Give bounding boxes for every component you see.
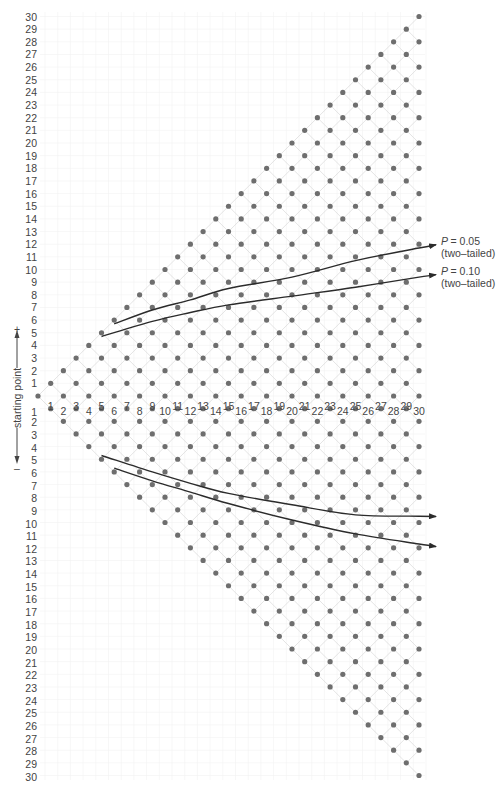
lattice-point (391, 318, 396, 323)
lattice-point (226, 355, 231, 360)
boundary-label-two-tailed: (two–tailed) (441, 247, 495, 259)
lattice-point (124, 431, 129, 436)
lattice-point (391, 216, 396, 221)
lattice-point (404, 204, 409, 209)
lattice-point (340, 469, 345, 474)
lattice-point (366, 646, 371, 651)
step-label: 18 (261, 405, 273, 417)
lattice-point (302, 608, 307, 613)
lattice-point (353, 710, 358, 715)
lattice-point (391, 39, 396, 44)
lattice-point (416, 166, 421, 171)
lattice-point (391, 672, 396, 677)
lattice-point (416, 520, 421, 525)
lattice-point (124, 305, 129, 310)
lattice-point (239, 545, 244, 550)
y-label-down: 21 (25, 657, 37, 669)
lattice-point (226, 381, 231, 386)
lattice-point (213, 267, 218, 272)
lattice-point (251, 381, 256, 386)
lattice-point (201, 229, 206, 234)
lattice-point (416, 267, 421, 272)
lattice-point (340, 520, 345, 525)
lattice-point (162, 292, 167, 297)
lattice-point (328, 128, 333, 133)
lattice-point (213, 368, 218, 373)
lattice-point (264, 545, 269, 550)
lattice-point (124, 330, 129, 335)
lattice-point (201, 330, 206, 335)
lattice-point (188, 343, 193, 348)
lattice-point (404, 305, 409, 310)
lattice-point (391, 115, 396, 120)
lattice-point (366, 697, 371, 702)
lattice-point (251, 608, 256, 613)
lattice-point (226, 254, 231, 259)
lattice-point (416, 444, 421, 449)
y-label-down: 24 (25, 695, 37, 707)
lattice-point (378, 431, 383, 436)
step-label: 29 (400, 400, 412, 412)
lattice-point (353, 355, 358, 360)
lattice-point (378, 457, 383, 462)
lattice-point (48, 381, 53, 386)
y-label-up: 5 (31, 327, 37, 339)
lattice-point (315, 571, 320, 576)
lattice-point (239, 267, 244, 272)
lattice-point (391, 748, 396, 753)
lattice-point (264, 444, 269, 449)
lattice-point (188, 267, 193, 272)
lattice-point (328, 153, 333, 158)
lattice-point (353, 608, 358, 613)
lattice-point (264, 318, 269, 323)
lattice-point (366, 242, 371, 247)
y-label-down: 13 (25, 555, 37, 567)
lattice-point (226, 280, 231, 285)
lattice-point (315, 216, 320, 221)
lattice-point (366, 65, 371, 70)
lattice-point (328, 102, 333, 107)
lattice-point (188, 368, 193, 373)
lattice-point (239, 520, 244, 525)
y-label-up: 28 (25, 36, 37, 48)
lattice-point (277, 608, 282, 613)
y-label-down: 29 (25, 758, 37, 770)
lattice-point (277, 355, 282, 360)
lattice-point (239, 242, 244, 247)
step-label: 28 (388, 405, 400, 417)
lattice-point (378, 178, 383, 183)
lattice-point (175, 330, 180, 335)
y-label-up: 27 (25, 48, 37, 60)
lattice-point (366, 621, 371, 626)
lattice-point (404, 381, 409, 386)
step-label: 21 (299, 400, 311, 412)
lattice-point (213, 469, 218, 474)
boundary-labels: P = 0.05(two–tailed)P = 0.10(two–tailed) (441, 235, 495, 289)
lattice-point (416, 318, 421, 323)
lattice-point (328, 659, 333, 664)
step-label: 20 (286, 405, 298, 417)
lattice-point (416, 722, 421, 727)
lattice-point (391, 444, 396, 449)
lattice-point (162, 393, 167, 398)
lattice-point (378, 659, 383, 664)
y-label-down: 19 (25, 631, 37, 643)
lattice-point (353, 634, 358, 639)
lattice-point (99, 381, 104, 386)
lattice-point (289, 469, 294, 474)
lattice-point (86, 393, 91, 398)
lattice-point (137, 419, 142, 424)
step-label: 1 (48, 400, 54, 412)
lattice-point (328, 533, 333, 538)
lattice-point (277, 507, 282, 512)
lattice-point (264, 495, 269, 500)
lattice-point (366, 343, 371, 348)
lattice-point (328, 482, 333, 487)
lattice-point (378, 608, 383, 613)
lattice-point (378, 229, 383, 234)
lattice-point (404, 77, 409, 82)
lattice-point (416, 292, 421, 297)
lattice-point (162, 368, 167, 373)
lattice-point (150, 355, 155, 360)
lattice-point (391, 596, 396, 601)
